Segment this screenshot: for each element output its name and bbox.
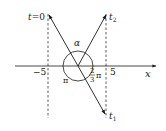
rotation-vector-diagram: x −5 5 t=0 t2 t1 α π 2 3 π [0,0,166,131]
vector-t2 [78,15,106,66]
tick-label-pos5: 5 [110,67,116,77]
x-axis-label: x [145,68,151,79]
fraction-pi: π [96,71,101,80]
label-t2: t2 [109,12,117,23]
label-t0: t=0 [28,12,45,22]
angle-alpha-label: α [74,38,80,48]
fraction-numerator: 2 [90,67,94,75]
fraction-denominator: 3 [90,76,94,84]
angle-pi-label: π [63,76,68,85]
tick-label-neg5: −5 [33,67,47,77]
label-t1: t1 [109,111,116,122]
